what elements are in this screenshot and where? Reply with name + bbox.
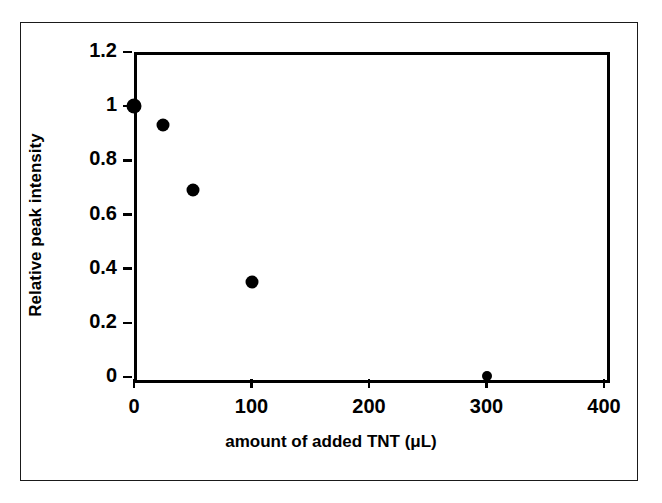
x-axis-tick-label: 100 [235, 395, 268, 418]
x-axis-tick-label: 0 [128, 395, 139, 418]
x-axis-tick-label: 400 [587, 395, 620, 418]
x-axis-tick-mark [133, 379, 136, 388]
data-point [157, 119, 170, 132]
y-axis-tick-label: 0.2 [40, 310, 117, 333]
x-axis-tick-mark [250, 379, 253, 388]
data-point [186, 184, 199, 197]
data-point [245, 276, 258, 289]
y-axis-tick-mark [123, 159, 132, 162]
y-axis-tick-label: 0.4 [40, 256, 117, 279]
data-point [127, 99, 142, 114]
y-axis-tick-label: 0 [40, 364, 117, 387]
y-axis-tick-mark [123, 322, 132, 325]
y-axis-tick-mark [123, 51, 132, 54]
y-axis-tick-mark [123, 376, 132, 379]
x-axis-tick-mark [603, 379, 606, 388]
plot-area-frame [134, 52, 610, 383]
y-axis-tick-label: 1 [40, 93, 117, 116]
y-axis-tick-label: 1.2 [40, 39, 117, 62]
y-axis-tick-mark [123, 213, 132, 216]
figure-container: Relative peak intensity amount of added … [0, 0, 662, 503]
x-axis-title: amount of added TNT (μL) [0, 432, 662, 452]
y-axis-tick-mark [123, 267, 132, 270]
data-point [482, 371, 492, 381]
x-axis-tick-label: 300 [470, 395, 503, 418]
x-axis-tick-mark [368, 379, 371, 388]
y-axis-tick-label: 0.6 [40, 202, 117, 225]
x-axis-tick-label: 200 [352, 395, 385, 418]
y-axis-tick-label: 0.8 [40, 147, 117, 170]
